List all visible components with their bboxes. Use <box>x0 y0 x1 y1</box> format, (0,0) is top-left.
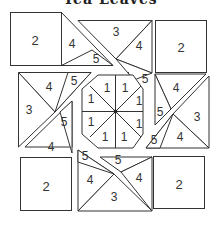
piece-label: 2 <box>42 179 49 194</box>
piece-label: 3 <box>26 103 33 117</box>
piece-label: 5 <box>82 149 89 163</box>
piece-mr-group: 4 5 3 5 4 <box>146 74 209 148</box>
piece-tl-square: 2 <box>11 13 62 66</box>
piece-octagon: 1 1 1 1 1 1 1 1 <box>82 75 143 148</box>
piece-label: 5 <box>115 153 122 167</box>
piece-label: 4 <box>87 173 94 187</box>
piece-label: 1 <box>88 115 95 129</box>
piece-label: 5 <box>61 115 68 129</box>
piece-ml-group: 4 5 3 5 4 <box>19 73 92 155</box>
piece-label: 1 <box>88 92 95 106</box>
piece-label: 4 <box>136 39 143 53</box>
piece-br-square: 2 <box>154 157 205 209</box>
piece-label: 4 <box>48 140 55 154</box>
piece-label: 2 <box>31 33 38 48</box>
piece-label: 1 <box>122 81 129 95</box>
piece-label: 4 <box>173 81 180 95</box>
quilt-diagram: 2 4 5 3 4 5 2 4 5 3 5 4 <box>0 0 221 228</box>
piece-label: 5 <box>151 133 158 147</box>
piece-label: 1 <box>104 81 111 95</box>
piece-tr-square: 2 <box>156 21 207 73</box>
piece-label: 4 <box>69 37 76 51</box>
piece-label: 3 <box>111 190 118 204</box>
piece-label: 5 <box>142 72 149 86</box>
piece-label: 4 <box>46 80 53 94</box>
piece-label: 5 <box>157 105 164 119</box>
piece-label: 5 <box>93 52 100 66</box>
piece-bl-square: 2 <box>21 158 72 211</box>
piece-label: 1 <box>121 130 128 144</box>
piece-label: 3 <box>194 110 201 124</box>
piece-bc-group: 5 4 3 5 4 <box>78 149 152 211</box>
piece-label: 2 <box>175 177 182 192</box>
piece-label: 1 <box>136 117 143 131</box>
piece-label: 1 <box>136 94 143 108</box>
piece-label: 2 <box>177 40 184 55</box>
piece-label: 4 <box>136 171 143 185</box>
piece-label: 1 <box>102 130 109 144</box>
piece-label: 4 <box>177 130 184 144</box>
piece-label: 3 <box>113 25 120 39</box>
piece-label: 5 <box>71 74 78 88</box>
